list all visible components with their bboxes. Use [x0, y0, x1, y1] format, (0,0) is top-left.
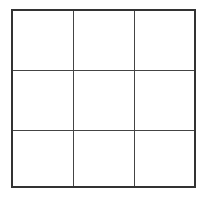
grid-cell-r2-c1 — [13, 71, 74, 131]
grid-cell-r1-c2 — [74, 11, 135, 71]
grid-cell-r2-c3 — [135, 71, 194, 131]
grid-cell-r3-c3 — [135, 131, 194, 186]
grid-cell-r2-c2 — [74, 71, 135, 131]
grid-cell-r1-c3 — [135, 11, 194, 71]
grid-cell-r3-c1 — [13, 131, 74, 186]
grid-cell-r1-c1 — [13, 11, 74, 71]
grid-cell-r3-c2 — [74, 131, 135, 186]
three-by-three-grid — [11, 9, 196, 188]
